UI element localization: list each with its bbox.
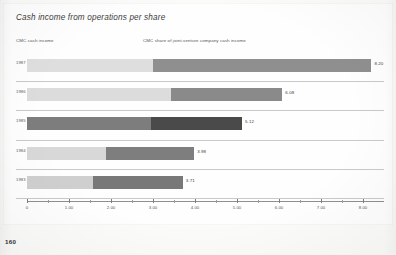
x-axis-tick-label: 8.00 xyxy=(359,205,367,210)
x-axis-tick-label: 4.00 xyxy=(191,205,199,210)
chart-row: 19843.98 xyxy=(16,141,384,170)
bar-value-label: 6.08 xyxy=(285,90,294,95)
x-axis-tick xyxy=(27,199,28,203)
y-axis-tick-label: 1987 xyxy=(16,60,25,65)
y-axis-tick-label: 1984 xyxy=(16,148,25,153)
x-axis-tick-label: 6.00 xyxy=(275,205,283,210)
x-axis-minor-tick xyxy=(174,200,175,203)
x-axis-line xyxy=(27,201,384,202)
scanned-page: Cash income from operations per share CM… xyxy=(0,0,396,255)
bar-segment-cmc-cash-income xyxy=(27,117,151,130)
bar-segment-joint-venture xyxy=(93,176,182,189)
chart-row: 19866.08 xyxy=(16,82,384,111)
x-axis-minor-tick xyxy=(132,200,133,203)
bar-segment-cmc-cash-income xyxy=(27,88,171,101)
chart-plot-area: 19878.2019866.0819855.1219843.9819833.71 xyxy=(16,53,384,199)
bar-value-label: 5.12 xyxy=(245,119,254,124)
page-title: Cash income from operations per share xyxy=(16,13,165,22)
stacked-bar xyxy=(27,59,371,72)
x-axis-tick xyxy=(153,199,154,203)
bar-segment-joint-venture xyxy=(106,147,194,160)
x-axis-minor-tick xyxy=(258,200,259,203)
x-axis-minor-tick xyxy=(300,200,301,203)
chart-row: 19855.12 xyxy=(16,111,384,140)
bar-value-label: 3.71 xyxy=(186,178,195,183)
chart-sheet: Cash income from operations per share CM… xyxy=(3,3,393,225)
bar-segment-joint-venture xyxy=(171,88,283,101)
x-axis-tick-label: 2.00 xyxy=(107,205,115,210)
stacked-bar xyxy=(27,147,194,160)
stacked-bar xyxy=(27,117,242,130)
page-number: 160 xyxy=(5,238,16,245)
bar-value-label: 8.20 xyxy=(374,61,383,66)
x-axis-tick xyxy=(111,199,112,203)
x-axis-minor-tick xyxy=(216,200,217,203)
x-axis-tick xyxy=(321,199,322,203)
x-axis-tick-label: 3.00 xyxy=(149,205,157,210)
x-axis-tick-label: 0 xyxy=(26,205,28,210)
y-axis-tick-label: 1986 xyxy=(16,89,25,94)
bar-value-label: 3.98 xyxy=(197,149,206,154)
x-axis-tick-label: 7.00 xyxy=(317,205,325,210)
x-axis-minor-tick xyxy=(48,200,49,203)
x-axis: 01.002.003.004.005.006.007.008.00 xyxy=(27,199,384,213)
bar-segment-cmc-cash-income xyxy=(27,176,93,189)
chart-row: 19833.71 xyxy=(16,170,384,199)
legend-item-joint-venture-cash-income: CMC share of joint-venture company cash … xyxy=(143,38,246,43)
bar-segment-joint-venture xyxy=(151,117,242,130)
x-axis-tick-label: 1.00 xyxy=(65,205,73,210)
bar-segment-cmc-cash-income xyxy=(27,147,106,160)
legend-item-cmc-cash-income: CMC cash income xyxy=(16,38,54,43)
stacked-bar xyxy=(27,176,183,189)
stacked-bar xyxy=(27,88,282,101)
x-axis-tick xyxy=(279,199,280,203)
x-axis-tick-label: 5.00 xyxy=(233,205,241,210)
x-axis-minor-tick xyxy=(90,200,91,203)
bar-segment-joint-venture xyxy=(153,59,371,72)
bar-segment-cmc-cash-income xyxy=(27,59,153,72)
chart-row: 19878.20 xyxy=(16,53,384,82)
x-axis-tick xyxy=(69,199,70,203)
x-axis-tick xyxy=(237,199,238,203)
y-axis-tick-label: 1985 xyxy=(16,118,25,123)
x-axis-minor-tick xyxy=(342,200,343,203)
y-axis-tick-label: 1983 xyxy=(16,177,25,182)
x-axis-tick xyxy=(195,199,196,203)
x-axis-tick xyxy=(363,199,364,203)
